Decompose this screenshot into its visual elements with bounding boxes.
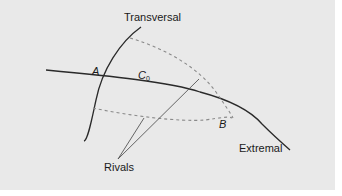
curve-c-subscript: 0 bbox=[146, 75, 150, 82]
transversal-label: Transversal bbox=[124, 12, 181, 23]
rivals-label: Rivals bbox=[104, 162, 134, 173]
rival-line-1 bbox=[118, 118, 144, 159]
rival-line-2 bbox=[118, 79, 199, 159]
point-b-label: B bbox=[219, 119, 226, 130]
curve-c-label: C0 bbox=[138, 70, 150, 82]
point-a-label: A bbox=[92, 66, 99, 77]
dashed-lower-curve bbox=[93, 108, 232, 120]
transversal-curve bbox=[84, 27, 141, 141]
diagram-svg bbox=[0, 0, 342, 196]
diagram-canvas: Transversal A C0 B Rivals Extremal bbox=[0, 0, 342, 196]
curve-c-text: C bbox=[138, 69, 146, 81]
extremal-label: Extremal bbox=[239, 143, 282, 154]
